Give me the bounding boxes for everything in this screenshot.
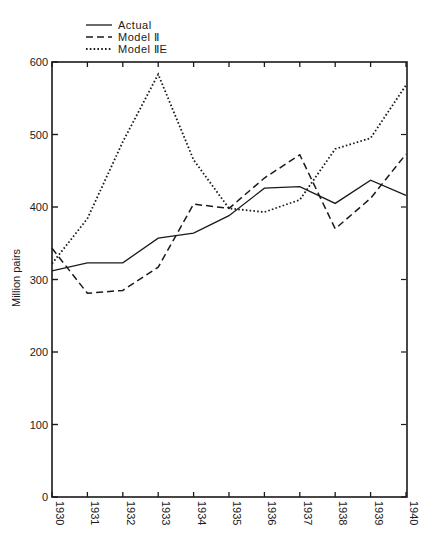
- series-line-model-ii: [52, 154, 406, 293]
- x-tick: 1936: [264, 62, 278, 525]
- y-tick: 200: [30, 346, 406, 358]
- series-line-actual: [52, 180, 406, 271]
- legend-item: Model ⅡE: [86, 43, 167, 55]
- x-axis: 1930193119321933193419351936193719381939…: [52, 62, 420, 525]
- y-tick: 500: [30, 129, 406, 141]
- x-tick: 1934: [194, 62, 208, 525]
- x-tick: 1937: [300, 62, 314, 525]
- x-tick: 1932: [123, 62, 137, 525]
- x-tick-label: 1940: [408, 501, 420, 525]
- x-tick-label: 1935: [231, 501, 243, 525]
- x-tick: 1933: [158, 62, 172, 525]
- x-tick-label: 1939: [373, 501, 385, 525]
- y-tick-label: 100: [30, 419, 48, 431]
- x-tick-label: 1930: [54, 501, 66, 525]
- y-axis-label: Million pairs: [10, 248, 22, 307]
- legend-label: Model ⅡE: [118, 43, 167, 55]
- y-axis: 0100200300400500600: [30, 56, 406, 503]
- legend-item: Actual: [86, 19, 152, 31]
- x-tick: 1930: [52, 62, 66, 525]
- plot-frame: [52, 62, 407, 497]
- y-tick: 100: [30, 419, 406, 431]
- y-tick-label: 500: [30, 129, 48, 141]
- legend-label: Actual: [118, 19, 152, 31]
- y-tick-label: 300: [30, 274, 48, 286]
- x-tick-label: 1937: [302, 501, 314, 525]
- legend-item: Model Ⅱ: [86, 31, 160, 43]
- x-tick-label: 1933: [160, 501, 172, 525]
- y-tick-label: 0: [42, 491, 48, 503]
- series-line-model-iie: [52, 74, 406, 263]
- legend-label: Model Ⅱ: [118, 31, 160, 43]
- x-tick: 1940: [406, 62, 420, 525]
- x-tick-label: 1934: [196, 501, 208, 525]
- series-lines: [52, 74, 406, 293]
- legend: ActualModel ⅡModel ⅡE: [86, 19, 167, 55]
- y-tick: 300: [30, 274, 406, 286]
- y-tick-label: 200: [30, 346, 48, 358]
- x-tick: 1935: [229, 62, 243, 525]
- y-tick-label: 400: [30, 201, 48, 213]
- x-tick: 1939: [371, 62, 385, 525]
- x-tick: 1938: [335, 62, 349, 525]
- x-tick-label: 1932: [125, 501, 137, 525]
- line-chart: ActualModel ⅡModel ⅡE 010020030040050060…: [0, 0, 428, 542]
- x-tick-label: 1938: [337, 501, 349, 525]
- y-tick-label: 600: [30, 56, 48, 68]
- x-tick-label: 1936: [266, 501, 278, 525]
- x-tick-label: 1931: [89, 501, 101, 525]
- y-tick: 600: [30, 56, 58, 68]
